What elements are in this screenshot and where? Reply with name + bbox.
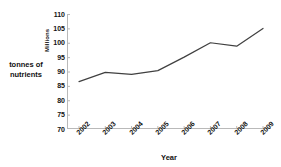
y-axis-tick-label: 85 xyxy=(48,82,65,89)
y-axis-tick-label: 70 xyxy=(48,126,65,133)
y-axis-tick-labels: 110105100959085807570 xyxy=(48,11,65,132)
y-axis-tick-label: 100 xyxy=(48,39,65,46)
y-axis-tick-label: 105 xyxy=(48,25,65,32)
x-axis-title: Year xyxy=(67,153,271,162)
y-axis-tick-label: 110 xyxy=(48,11,65,18)
x-axis-tick-labels: 20022003200420052006200720082009 xyxy=(67,131,281,153)
y-axis-tick-marks xyxy=(67,15,70,130)
plot-area xyxy=(67,14,271,129)
data-series-line xyxy=(67,14,271,129)
y-axis-tick-label: 90 xyxy=(48,68,65,75)
y-axis-tick-label: 80 xyxy=(48,97,65,104)
y-axis-tick-label: 75 xyxy=(48,111,65,118)
series-caption-line-2: nutrients xyxy=(10,70,42,79)
series-axis-caption: tonnes of nutrients xyxy=(2,60,50,80)
series-polyline xyxy=(79,28,263,81)
line-chart-figure: tonnes of nutrients Millions 11010510095… xyxy=(0,0,281,167)
series-caption-line-1: tonnes of xyxy=(9,60,43,69)
y-axis-tick-label: 95 xyxy=(48,54,65,61)
